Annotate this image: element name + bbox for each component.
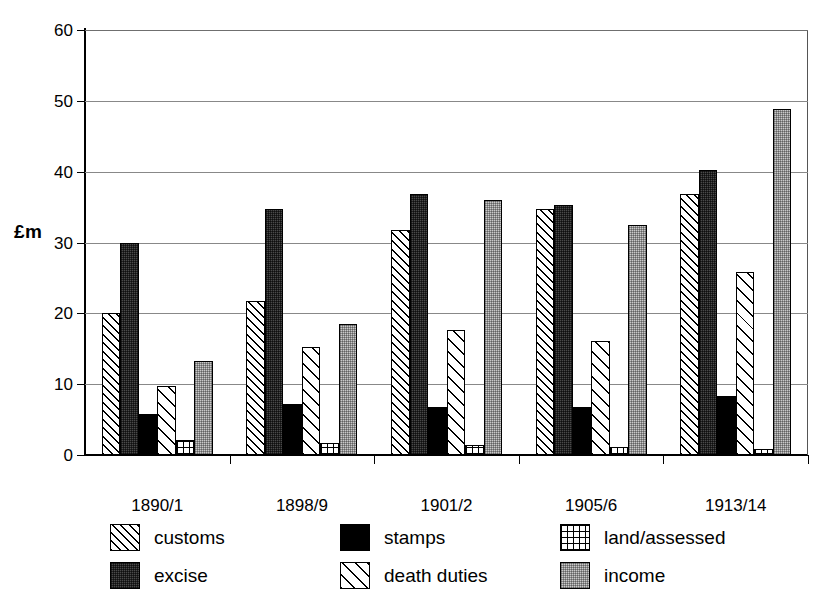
bar-death-duties-1898-9 <box>302 347 321 455</box>
bar-death-duties-1901-2 <box>447 330 466 455</box>
bar-death-duties-1905-6 <box>591 341 610 455</box>
x-tick-mark <box>808 455 809 464</box>
bar-chart: £m 0102030405060 1890/11898/91901/21905/… <box>0 0 819 601</box>
legend-item-excise[interactable]: excise <box>110 562 340 589</box>
bar-customs-1905-6 <box>536 209 555 456</box>
y-tick-label: 40 <box>54 163 73 180</box>
legend-swatch-land-assessed <box>560 524 590 551</box>
legend-label: land/assessed <box>604 528 725 547</box>
legend-swatch-income <box>560 562 590 589</box>
bar-income-1898-9 <box>339 324 358 455</box>
y-tick-mark <box>77 455 85 456</box>
y-tick-label: 10 <box>54 376 73 393</box>
legend-label: death duties <box>384 566 488 585</box>
bar-excise-1905-6 <box>554 205 573 455</box>
legend-swatch-excise <box>110 562 140 589</box>
legend-item-death-duties[interactable]: death duties <box>340 562 560 589</box>
bar-land-assessed-1901-2 <box>465 445 484 455</box>
bar-stamps-1913-14 <box>717 396 736 455</box>
bar-land-assessed-1905-6 <box>610 447 629 455</box>
x-tick-mark <box>663 455 664 464</box>
x-tick-label: 1890/1 <box>131 496 183 516</box>
bar-excise-1898-9 <box>265 209 284 456</box>
legend-label: excise <box>154 566 208 585</box>
bar-land-assessed-1898-9 <box>320 443 339 455</box>
y-tick-mark <box>77 313 85 314</box>
bar-customs-1913-14 <box>680 194 699 455</box>
gridline <box>85 30 808 31</box>
legend-item-income[interactable]: income <box>560 562 770 589</box>
bar-stamps-1901-2 <box>428 407 447 455</box>
x-tick-mark <box>230 455 231 464</box>
legend-label: customs <box>154 528 225 547</box>
legend-swatch-customs <box>110 524 140 551</box>
x-tick-mark <box>374 455 375 464</box>
legend-swatch-stamps <box>340 524 370 551</box>
legend-label: stamps <box>384 528 445 547</box>
y-axis-line <box>84 28 86 455</box>
y-tick-mark <box>77 172 85 173</box>
bar-death-duties-1913-14 <box>736 272 755 455</box>
gridline <box>85 101 808 102</box>
plot-area: 0102030405060 1890/11898/91901/21905/619… <box>85 30 808 455</box>
y-tick-mark <box>77 384 85 385</box>
bar-income-1905-6 <box>628 225 647 455</box>
y-tick-mark <box>77 30 85 31</box>
bar-land-assessed-1913-14 <box>754 449 773 455</box>
bar-stamps-1890-1 <box>139 414 158 455</box>
x-tick-label: 1898/9 <box>276 496 328 516</box>
y-tick-label: 50 <box>54 92 73 109</box>
bar-excise-1901-2 <box>410 194 429 455</box>
bar-customs-1898-9 <box>246 301 265 455</box>
bar-stamps-1905-6 <box>573 407 592 455</box>
x-tick-label: 1901/2 <box>421 496 473 516</box>
legend-label: income <box>604 566 665 585</box>
bar-income-1890-1 <box>194 361 213 455</box>
bar-stamps-1898-9 <box>283 404 302 455</box>
bar-excise-1890-1 <box>120 243 139 455</box>
bar-excise-1913-14 <box>699 170 718 455</box>
x-tick-label: 1905/6 <box>565 496 617 516</box>
bar-income-1913-14 <box>773 109 792 455</box>
x-tick-label: 1913/14 <box>705 496 766 516</box>
bar-land-assessed-1890-1 <box>176 440 195 455</box>
bar-income-1901-2 <box>484 200 503 455</box>
y-tick-mark <box>77 101 85 102</box>
y-tick-label: 0 <box>64 447 73 464</box>
y-tick-label: 20 <box>54 305 73 322</box>
y-tick-label: 60 <box>54 22 73 39</box>
y-tick-label: 30 <box>54 234 73 251</box>
legend-item-stamps[interactable]: stamps <box>340 524 560 551</box>
legend-item-land-assessed[interactable]: land/assessed <box>560 524 770 551</box>
legend: customsstampsland/assessedexcisedeath du… <box>110 518 770 594</box>
y-tick-mark <box>77 243 85 244</box>
bar-customs-1901-2 <box>391 230 410 455</box>
bar-death-duties-1890-1 <box>157 386 176 455</box>
legend-item-customs[interactable]: customs <box>110 524 340 551</box>
bar-customs-1890-1 <box>102 313 121 455</box>
x-tick-mark <box>519 455 520 464</box>
legend-swatch-death-duties <box>340 562 370 589</box>
y-axis-title: £m <box>14 221 42 243</box>
